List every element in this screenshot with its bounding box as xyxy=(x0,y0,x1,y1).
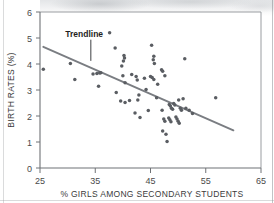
scatter-point xyxy=(113,46,117,50)
scatter-point xyxy=(114,91,118,95)
scatter-point xyxy=(177,122,181,126)
x-tick-label-35: 35 xyxy=(90,176,100,186)
scatter-point xyxy=(164,132,168,136)
scatter-point xyxy=(128,99,132,103)
y-tick-label-3: 3 xyxy=(27,86,32,96)
scatter-point xyxy=(177,98,181,102)
y-axis-title: BIRTH RATES (%) xyxy=(6,52,16,128)
scatter-point xyxy=(169,120,173,124)
x-axis-title: % GIRLS AMONG SECONDARY STUDENTS xyxy=(60,189,243,199)
scatter-plot: 6 5 4 3 2 1 0 25 35 45 55 65 % GIRLS xyxy=(0,0,274,203)
x-tick-label-65: 65 xyxy=(256,176,266,186)
scatter-point xyxy=(153,62,157,65)
scatter-point xyxy=(130,73,134,77)
scatter-point xyxy=(42,67,46,71)
scatter-point xyxy=(137,93,141,97)
scatter-point xyxy=(73,78,77,82)
scatter-point xyxy=(163,119,167,123)
scatter-point xyxy=(161,70,165,74)
x-tick-label-45: 45 xyxy=(145,176,155,186)
scatter-point xyxy=(183,57,187,61)
scatter-point xyxy=(155,96,159,100)
scatter-point xyxy=(152,54,156,58)
scatter-point xyxy=(187,109,191,113)
x-axis-ticks xyxy=(40,168,261,173)
scatter-point xyxy=(171,107,175,111)
scatter-point xyxy=(181,97,185,101)
scatter-point xyxy=(134,75,138,79)
scatter-point xyxy=(123,56,127,60)
y-axis: 6 5 4 3 2 1 0 xyxy=(27,8,40,174)
scatter-point xyxy=(150,44,154,48)
y-tick-label-0: 0 xyxy=(27,164,32,174)
scatter-point xyxy=(119,99,123,103)
scatter-point xyxy=(136,98,140,102)
y-tick-label-5: 5 xyxy=(27,34,32,44)
y-tick-label-2: 2 xyxy=(27,112,32,122)
scatter-point xyxy=(144,88,148,92)
y-axis-ticks xyxy=(36,12,40,168)
scatter-point xyxy=(91,72,95,76)
x-tick-label-55: 55 xyxy=(201,176,211,186)
scatter-point xyxy=(152,58,156,62)
scatter-point xyxy=(133,111,137,115)
scatter-point xyxy=(180,109,184,113)
scatter-point xyxy=(165,140,169,144)
scatter-point xyxy=(163,74,167,78)
scatter-point xyxy=(123,101,127,105)
trendline-annotation-label: Trendline xyxy=(65,29,103,39)
y-tick-label-1: 1 xyxy=(27,138,32,148)
scatter-point xyxy=(149,75,153,79)
scatter-point xyxy=(135,78,139,82)
scatter-point xyxy=(99,71,103,75)
scatter-point xyxy=(108,31,112,35)
scatter-point xyxy=(143,77,147,81)
scatter-point xyxy=(123,81,127,85)
scatter-point xyxy=(156,83,160,87)
y-tick-label-6: 6 xyxy=(27,8,32,18)
scatter-point xyxy=(147,109,151,113)
scatter-point xyxy=(184,106,188,110)
scatter-point xyxy=(161,129,165,133)
x-tick-label-25: 25 xyxy=(35,176,45,186)
figure-scatter-birth-rates: 6 5 4 3 2 1 0 25 35 45 55 65 % GIRLS xyxy=(0,0,274,203)
y-tick-label-4: 4 xyxy=(27,60,32,70)
scatter-point xyxy=(97,85,101,89)
scatter-point xyxy=(160,109,164,113)
x-axis: 25 35 45 55 65 xyxy=(35,168,266,186)
scatter-point xyxy=(69,62,73,65)
scatter-point xyxy=(191,112,195,116)
scatter-point xyxy=(121,74,125,78)
scatter-point xyxy=(173,103,177,107)
scatter-point xyxy=(138,116,142,120)
scatter-point xyxy=(152,78,156,82)
scatter-point xyxy=(214,96,218,100)
scatter-point xyxy=(120,64,124,68)
